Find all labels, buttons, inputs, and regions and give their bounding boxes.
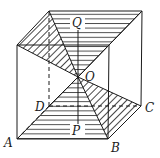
label-c: C — [145, 101, 154, 115]
label-b: B — [110, 141, 120, 155]
label-a: A — [3, 136, 13, 150]
edge-c-c1 — [141, 11, 142, 106]
cube-diagram: Q P O D C A B — [0, 0, 160, 158]
label-o: O — [85, 70, 95, 84]
label-p: P — [71, 124, 81, 138]
cube-pyramid-figure: Q P O D C A B — [0, 0, 160, 158]
label-d: D — [34, 100, 45, 114]
label-q: Q — [72, 16, 82, 30]
